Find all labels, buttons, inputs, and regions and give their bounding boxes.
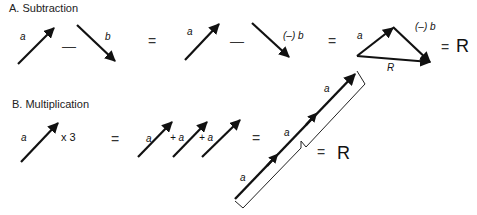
sum-label-3: + a <box>199 133 213 143</box>
triangle-r-label: R <box>387 63 394 73</box>
neg-b-label: (–) b <box>283 31 304 41</box>
equals-sign: = <box>148 34 156 48</box>
section-b-title: B. Multiplication <box>12 99 89 110</box>
triangle-a-label: a <box>357 31 363 41</box>
sum-label-2: + a <box>170 133 184 143</box>
equals-sign-2: = <box>328 34 336 48</box>
minus-sign: — <box>62 39 76 53</box>
equals-sign-3: = <box>441 40 449 54</box>
subtraction-vectors <box>18 23 430 64</box>
equals-sign-b2: = <box>252 131 260 145</box>
vector-operations-diagram: A. Subtraction a — b = a — (–) b = a (–)… <box>0 0 477 215</box>
vector-a2-label: a <box>187 27 193 37</box>
triangle-neg-b-label: (–) b <box>415 22 436 32</box>
vector-b-label: b <box>105 32 111 42</box>
equals-sign-b3: = <box>317 145 325 159</box>
triangle-neg-b-arrow <box>393 27 430 62</box>
chain-label-1: a <box>240 173 246 183</box>
result-r-b: R <box>337 144 350 162</box>
section-a-title: A. Subtraction <box>9 3 78 14</box>
sum-label-1: a <box>146 134 152 144</box>
chain-midarrow-1 <box>267 157 275 166</box>
chain-label-3: a <box>324 84 330 94</box>
chain-label-2: a <box>284 128 290 138</box>
sum-vector-1 <box>138 122 172 157</box>
minus-sign-2: — <box>230 34 244 48</box>
equals-sign-b: = <box>111 132 119 146</box>
vector-a-label-b: a <box>21 133 27 143</box>
result-r: R <box>456 37 469 55</box>
vector-a-label: a <box>20 32 26 42</box>
times-three: x 3 <box>61 132 76 143</box>
chain-midarrow-2 <box>306 116 314 125</box>
